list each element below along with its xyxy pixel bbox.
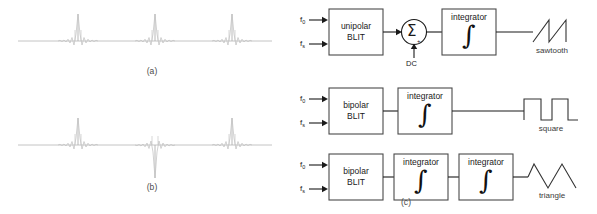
sawtooth-input-sub-0: 0 xyxy=(302,19,305,25)
plot-a-impulse-2 xyxy=(135,14,175,45)
dc-input-label: DC xyxy=(406,59,417,68)
sawtooth-input-arrow-0 xyxy=(309,17,328,23)
square-input-arrow-1 xyxy=(309,120,328,126)
plot-b-impulse-1 xyxy=(58,118,98,149)
sawtooth-input-label-1: fs xyxy=(300,39,305,48)
dc-input-arrow xyxy=(411,44,417,59)
sigma-icon: Σ xyxy=(407,24,416,39)
square-input-arrow-0 xyxy=(309,96,328,102)
sawtooth-input-sub-1: s xyxy=(302,43,305,49)
unipolar-blit-line1: unipolar xyxy=(329,21,383,32)
square-input-label-1: fs xyxy=(300,118,305,127)
integral-icon-square: ∫ xyxy=(418,101,432,127)
square-waveform xyxy=(524,99,578,120)
triangle-input-sub-0: 0 xyxy=(302,164,305,170)
plot-a-caption: (a) xyxy=(132,66,172,76)
plot-a-impulse-3 xyxy=(212,14,252,45)
sawtooth-waveform xyxy=(533,20,566,42)
bipolar-blit-square-line2: BLIT xyxy=(329,111,383,122)
bipolar-blit-label-triangle: bipolar BLIT xyxy=(329,166,383,188)
sawtooth-input-label-0: f0 xyxy=(300,15,305,24)
plot-b-caption: (b) xyxy=(132,182,172,192)
unipolar-blit-label: unipolar BLIT xyxy=(329,21,383,43)
integral-icon-triangle-2: ∫ xyxy=(479,167,493,193)
bipolar-blit-label-square: bipolar BLIT xyxy=(329,100,383,122)
summer-plus-sign: + xyxy=(417,38,421,44)
sawtooth-link-blit-summer xyxy=(383,29,402,35)
triangle-output-label: triangle xyxy=(522,191,582,200)
triangle-input-sub-1: s xyxy=(302,188,305,194)
bipolar-blit-triangle-line1: bipolar xyxy=(329,166,383,177)
plot-b-impulse-3 xyxy=(212,118,252,149)
integral-icon-sawtooth: ∫ xyxy=(462,22,476,48)
plot-b-group xyxy=(18,118,272,178)
plot-a-impulse-1 xyxy=(58,14,98,45)
square-output-label: square xyxy=(521,124,581,133)
integral-icon-triangle-1: ∫ xyxy=(414,167,428,193)
triangle-input-arrow-1 xyxy=(309,186,328,192)
plot-b-impulse-2 xyxy=(135,136,175,178)
plot-a-group xyxy=(18,14,272,45)
square-input-sub-0: 0 xyxy=(302,98,305,104)
triangle-waveform xyxy=(528,164,576,188)
triangle-input-label-0: f0 xyxy=(300,160,305,169)
square-input-label-0: f0 xyxy=(300,94,305,103)
figure-root: (a) (b) (c) f0 fs unipolar BLIT Σ + DC i… xyxy=(0,0,597,214)
bipolar-blit-triangle-line2: BLIT xyxy=(329,177,383,188)
sawtooth-output-label: sawtooth xyxy=(522,46,582,55)
panel-c-caption: (c) xyxy=(386,197,426,207)
sawtooth-input-arrow-1 xyxy=(309,41,328,47)
unipolar-blit-line2: BLIT xyxy=(329,32,383,43)
square-input-sub-1: s xyxy=(302,122,305,128)
figure-graphics xyxy=(0,0,597,214)
triangle-input-arrow-0 xyxy=(309,162,328,168)
bipolar-blit-square-line1: bipolar xyxy=(329,100,383,111)
triangle-input-label-1: fs xyxy=(300,184,305,193)
